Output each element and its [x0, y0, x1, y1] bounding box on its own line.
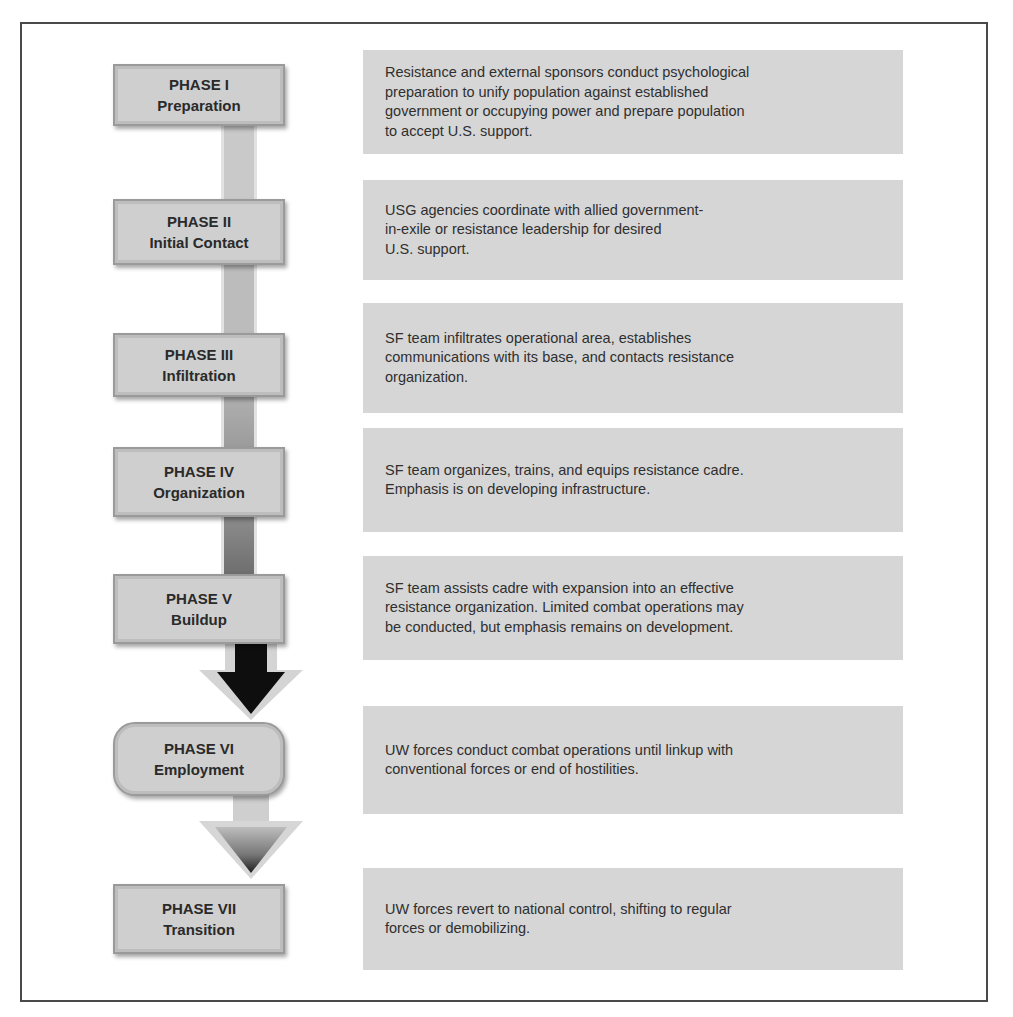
connector-phase-3-4	[221, 395, 257, 451]
phase-description-5: SF team assists cadre with expansion int…	[363, 556, 903, 660]
phase-label: PHASE I	[169, 74, 229, 95]
phase-name: Initial Contact	[149, 232, 248, 253]
phase-box-1: PHASE I Preparation	[113, 64, 285, 126]
phase-box-3: PHASE III Infiltration	[113, 333, 285, 397]
phase-label: PHASE II	[167, 211, 231, 232]
connector-phase-2-3	[221, 265, 257, 335]
phase-description-1: Resistance and external sponsors conduct…	[363, 50, 903, 154]
phase-label: PHASE V	[166, 588, 232, 609]
phase-description-2: USG agencies coordinate with allied gove…	[363, 180, 903, 280]
phase-name: Buildup	[171, 609, 227, 630]
connector-phase-1-2	[221, 125, 257, 201]
arrow-down-icon	[195, 795, 307, 880]
phase-name: Organization	[153, 482, 245, 503]
phase-label: PHASE VI	[164, 738, 234, 759]
description-text: SF team infiltrates operational area, es…	[385, 329, 734, 388]
phase-box-7: PHASE VII Transition	[113, 884, 285, 954]
description-text: SF team organizes, trains, and equips re…	[385, 461, 744, 500]
phase-label: PHASE IV	[164, 461, 234, 482]
phase-description-3: SF team infiltrates operational area, es…	[363, 303, 903, 413]
phase-box-2: PHASE II Initial Contact	[113, 199, 285, 265]
phase-name: Transition	[163, 919, 235, 940]
phase-description-4: SF team organizes, trains, and equips re…	[363, 428, 903, 532]
phase-label: PHASE III	[165, 344, 233, 365]
description-text: UW forces revert to national control, sh…	[385, 900, 732, 939]
phase-name: Infiltration	[162, 365, 235, 386]
phase-name: Employment	[154, 759, 244, 780]
description-text: USG agencies coordinate with allied gove…	[385, 201, 703, 260]
phase-description-6: UW forces conduct combat operations unti…	[363, 706, 903, 814]
description-text: Resistance and external sponsors conduct…	[385, 63, 749, 141]
description-text: UW forces conduct combat operations unti…	[385, 741, 733, 780]
phase-box-5: PHASE V Buildup	[113, 574, 285, 644]
phase-box-4: PHASE IV Organization	[113, 447, 285, 517]
phase-label: PHASE VII	[162, 898, 236, 919]
phase-description-7: UW forces revert to national control, sh…	[363, 868, 903, 970]
description-text: SF team assists cadre with expansion int…	[385, 579, 744, 638]
connector-phase-4-5	[221, 515, 257, 575]
phase-name: Preparation	[157, 95, 240, 116]
phase-box-6: PHASE VI Employment	[113, 722, 285, 796]
arrow-down-icon	[195, 640, 307, 722]
